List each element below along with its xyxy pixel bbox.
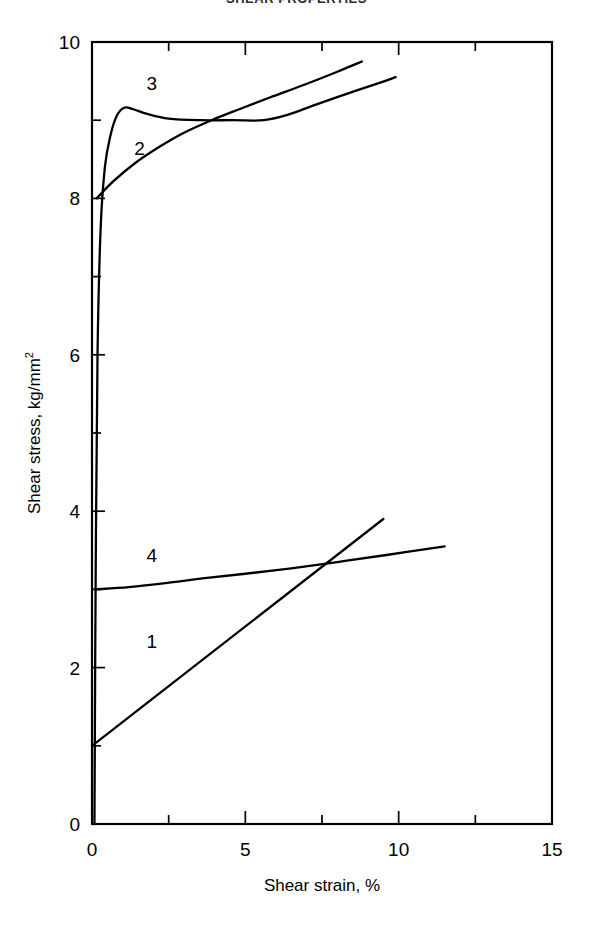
y-tick-label: 8 — [69, 188, 80, 209]
y-tick-label: 2 — [69, 658, 80, 679]
curve-1 — [92, 519, 383, 746]
x-tick-label: 0 — [87, 839, 98, 860]
x-tick-label: 15 — [541, 839, 562, 860]
x-tick-label: 10 — [388, 839, 409, 860]
data-curves — [92, 62, 445, 824]
y-tick-label: 0 — [69, 814, 80, 835]
x-axis-title-text: Shear strain, % — [264, 876, 380, 895]
x-axis-minor-ticks — [169, 42, 476, 824]
x-tick-label: 5 — [240, 839, 251, 860]
curve-2 — [97, 62, 362, 199]
y-tick-label: 10 — [59, 32, 80, 53]
y-axis-title-text: Shear stress, kg/mm2 — [23, 352, 44, 514]
y-tick-label: 6 — [69, 345, 80, 366]
curve-label-4: 4 — [147, 545, 158, 566]
curve-3 — [94, 77, 395, 824]
plot-frame — [92, 42, 552, 824]
curve-label-1: 1 — [147, 631, 158, 652]
x-axis-major-ticks — [92, 42, 552, 824]
y-axis-title: Shear stress, kg/mm2 — [23, 352, 44, 514]
x-axis-tick-labels: 051015 — [87, 839, 563, 860]
figure-container: SHEAR PROPERTIES 0246810 051015 1234 She… — [0, 0, 593, 930]
y-tick-label: 4 — [69, 501, 80, 522]
y-axis-title-base: Shear stress, kg/mm — [25, 358, 44, 514]
curve-label-2: 2 — [134, 138, 145, 159]
curve-label-3: 3 — [147, 73, 158, 94]
y-axis-title-exponent: 2 — [23, 352, 35, 358]
y-axis-tick-labels: 0246810 — [59, 32, 81, 835]
shear-stress-strain-chart: 0246810 051015 1234 Shear stress, kg/mm2… — [0, 0, 593, 930]
